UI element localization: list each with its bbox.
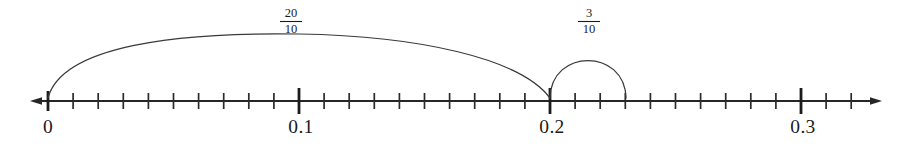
right-arrow-icon [870, 97, 882, 105]
axis-label-0: 0 [43, 116, 53, 137]
axis-label-0-2: 0.2 [539, 116, 564, 137]
number-line-canvas: 0 0.1 0.2 0.3 20 10 3 10 [0, 0, 912, 146]
axis-label-0-1: 0.1 [288, 116, 313, 137]
jump-label-first-numerator: 20 [285, 6, 298, 20]
left-arrow-icon [30, 97, 42, 105]
axis-label-0-3: 0.3 [790, 116, 815, 137]
number-line-figure: 0 0.1 0.2 0.3 20 10 3 10 [0, 0, 912, 146]
jump-arc-second [550, 61, 626, 99]
jump-label-second-denominator: 10 [583, 22, 596, 36]
jump-label-second: 3 10 [578, 6, 600, 36]
jump-label-first-denominator: 10 [285, 22, 298, 36]
jump-label-second-numerator: 3 [586, 6, 592, 20]
jump-label-first: 20 10 [280, 6, 302, 36]
